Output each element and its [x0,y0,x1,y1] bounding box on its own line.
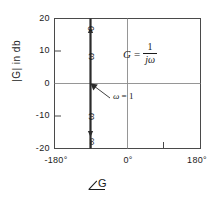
annotation-omega-bottom: ω [87,106,96,128]
y-axis-title: |G| in db [12,16,22,106]
equation-fraction: 1 jω [143,42,157,65]
x-axis-title: G [96,178,107,189]
xtick-label-minus180deg: -180° [34,156,78,165]
xtick-label-0deg: 0° [112,156,144,165]
x-axis-title-letter: G [98,177,107,189]
angle-symbol: G [96,178,107,189]
ytick-label-0: 0 [22,79,50,88]
callout-omega-value: = 1 [119,91,133,101]
equation-equals: = [134,48,140,60]
equation-denominator: jω [143,54,157,65]
annotation-omega-zero: 0 [87,18,96,40]
annotation-omega-top: ω [87,46,96,68]
equation-lhs: G [123,48,131,60]
transfer-function-equation: G = 1 jω [123,42,157,65]
xtick-label-180deg: 180° [180,156,214,165]
equation-numerator: 1 [146,42,155,53]
nichols-chart-figure: 20 10 0 -10 -20 -180° 0° 180° |G| in db … [0,0,215,205]
ytick-label-minus10: -10 [22,111,50,120]
ytick-label-10: 10 [22,46,50,55]
callout-leader-line [94,86,110,98]
y-tick-label-group: 20 10 0 -10 -20 [20,0,50,205]
annotation-omega-infinity: ∞ [87,131,96,153]
ytick-label-minus20: -20 [22,144,50,153]
ytick-label-20: 20 [22,14,50,23]
callout-omega-equals-one: ω = 1 [113,92,133,101]
angle-bar-icon [89,189,105,190]
